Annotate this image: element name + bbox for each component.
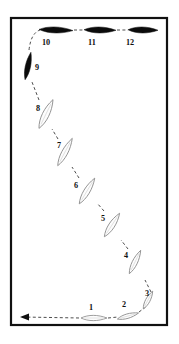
grain-label-7: 7 bbox=[57, 141, 61, 150]
grain-label-10: 10 bbox=[42, 38, 50, 47]
grain-label-8: 8 bbox=[36, 104, 40, 113]
grain-label-6: 6 bbox=[74, 181, 78, 190]
grain-label-2: 2 bbox=[122, 300, 126, 309]
grain-label-3: 3 bbox=[145, 289, 149, 298]
grain-label-12: 12 bbox=[126, 38, 134, 47]
grain-label-5: 5 bbox=[101, 214, 105, 223]
sequence-diagram: 123456789101112 bbox=[0, 0, 179, 344]
figure-container: 123456789101112 bbox=[0, 0, 179, 344]
grain-label-9: 9 bbox=[35, 63, 39, 72]
grain-label-4: 4 bbox=[124, 251, 128, 260]
grain-label-1: 1 bbox=[89, 303, 93, 312]
grain-label-11: 11 bbox=[88, 38, 96, 47]
